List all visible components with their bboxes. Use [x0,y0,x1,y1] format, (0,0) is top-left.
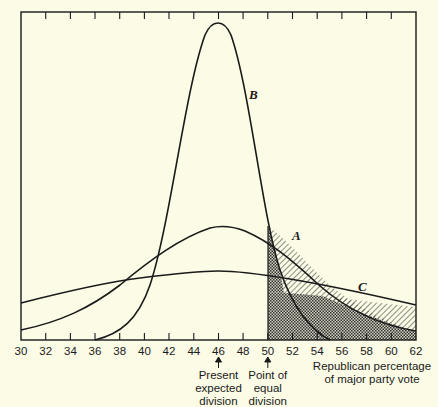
tick-label: 50 [261,345,274,357]
curve-b-label: B [248,87,258,102]
tick-label: 52 [286,345,299,357]
tick-label: 34 [64,345,77,357]
plot-frame [21,12,416,340]
equal-label-1: Point of [248,369,288,381]
tick-label: 56 [336,345,349,357]
tick-label: 42 [163,345,176,357]
curve-a-label: A [291,228,301,243]
tick-label: 38 [113,345,126,357]
tick-label: 32 [39,345,52,357]
top-ticks [46,12,392,19]
tick-label: 46 [212,345,225,357]
tick-label: 40 [138,345,151,357]
tick-label: 36 [89,345,102,357]
tick-label: 30 [15,345,28,357]
x-tick-labels: 30 32 34 36 38 40 42 44 46 48 50 52 54 5… [15,345,423,357]
equal-arrow-icon [265,357,271,368]
present-arrow-icon [216,357,222,368]
present-label-3: division [199,395,237,407]
tick-label: 44 [187,345,200,357]
tick-label: 58 [360,345,373,357]
present-label-1: Present [199,369,239,381]
curve-c [21,271,416,305]
equal-label-2: equal [254,382,282,394]
tick-label: 60 [385,345,398,357]
tick-label: 48 [237,345,250,357]
present-label-2: expected [195,382,242,394]
equal-label-3: division [249,395,287,407]
tick-label: 54 [311,345,324,357]
x-axis-label-1: Republican percentage [313,360,431,372]
x-axis-label-2: of major party vote [324,373,419,385]
curve-c-label: C [358,279,367,294]
chart: B A C 30 32 34 36 38 40 42 44 46 48 50 5… [0,0,438,407]
tick-label: 62 [410,345,423,357]
